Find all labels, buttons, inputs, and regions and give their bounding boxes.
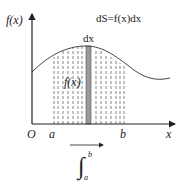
x-axis-label: x: [165, 127, 172, 141]
curve-label: f(x): [64, 75, 81, 89]
integral-diagram: f(x) dS=f(x)dx dx f(x) O a b x ∫ b a: [0, 0, 186, 182]
lower-bound-label: a: [49, 127, 55, 141]
formula-label: dS=f(x)dx: [96, 12, 142, 25]
integral-upper-limit: b: [88, 150, 92, 159]
integral-lower-limit: a: [84, 173, 88, 182]
area-strip: [86, 46, 91, 124]
upper-bound-label: b: [120, 127, 126, 141]
strip-label: dx: [83, 32, 95, 44]
y-axis-label: f(x): [6, 13, 23, 27]
origin-label: O: [27, 127, 36, 141]
